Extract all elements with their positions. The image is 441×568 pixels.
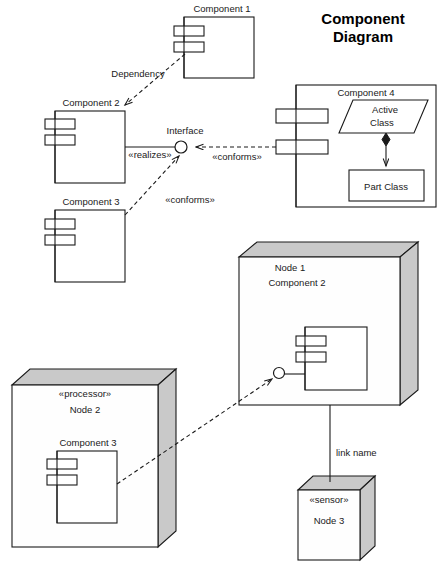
- node-1-side-face: [400, 242, 418, 405]
- conforms-lower-label: «conforms»: [165, 194, 215, 205]
- node-1-component-icon-bar-top: [296, 336, 326, 346]
- component-2-icon-bar-top: [45, 119, 75, 129]
- node-2-component-icon-bar-top: [47, 459, 77, 469]
- node-2-component-icon-bar-bottom: [47, 475, 77, 485]
- node-2-side-face: [158, 369, 176, 547]
- component-3-icon-bar-top: [45, 219, 75, 229]
- node-3-stereotype-label: «sensor»: [309, 494, 348, 505]
- active-class-label-line1: Active: [372, 104, 398, 115]
- conforms-lower-arrow[interactable]: [125, 156, 179, 215]
- component-3[interactable]: Component 3: [45, 196, 125, 282]
- conforms-right-label: «conforms»: [212, 151, 262, 162]
- realizes-label: «realizes»: [128, 149, 171, 160]
- interface-label: Interface: [167, 125, 204, 136]
- component-1-icon-bar-top: [174, 26, 204, 36]
- node-2[interactable]: «processor» Node 2 Component 3: [12, 369, 176, 547]
- part-class[interactable]: Part Class: [349, 170, 424, 201]
- component-4[interactable]: Component 4 Active Class Part Class: [276, 85, 436, 207]
- component-2-icon-bar-bottom: [45, 135, 75, 145]
- conforms-lower-relationship[interactable]: «conforms»: [125, 156, 215, 215]
- active-class[interactable]: Active Class: [339, 100, 428, 133]
- component-4-label: Component 4: [337, 87, 394, 98]
- component-4-icon-bar-top: [276, 109, 328, 123]
- node-3-name-label: Node 3: [314, 515, 345, 526]
- link-name-label: link name: [336, 447, 377, 458]
- component-3-icon-bar-bottom: [45, 235, 75, 245]
- interface-lollipop[interactable]: Interface «realizes»: [125, 125, 203, 160]
- node-1-top-face: [239, 242, 418, 257]
- component-2[interactable]: Component 2: [45, 97, 125, 183]
- node-3[interactable]: «sensor» Node 3: [298, 476, 375, 560]
- node-2-component-label: Component 3: [59, 437, 116, 448]
- component-3-label: Component 3: [62, 196, 119, 207]
- node-3-side-face: [360, 476, 375, 560]
- node-1-component-icon-bar-bottom: [296, 352, 326, 362]
- diagram-title-line2: Diagram: [333, 28, 393, 45]
- node-1-nested-component-2[interactable]: [296, 327, 367, 390]
- dependency-relationship[interactable]: Dependency: [111, 54, 185, 105]
- node-1-name-label: Node 1: [275, 262, 306, 273]
- component-1-icon-bar-bottom: [174, 42, 204, 52]
- uml-diagram-svg: Component Diagram Component 1 Dependency…: [0, 0, 441, 568]
- node-link-association[interactable]: link name: [330, 405, 377, 482]
- conforms-right-relationship[interactable]: «conforms»: [196, 147, 276, 162]
- node-2-name-label: Node 2: [70, 404, 101, 415]
- diagram-title: Component Diagram: [321, 10, 404, 45]
- node-1[interactable]: Node 1 Component 2: [239, 242, 418, 405]
- component-1[interactable]: Component 1: [174, 3, 254, 78]
- diagram-title-line1: Component: [321, 10, 404, 27]
- node-2-stereotype-label: «processor»: [59, 388, 111, 399]
- component-4-icon-bar-bottom: [276, 140, 328, 154]
- interface-circle-icon[interactable]: [175, 141, 187, 153]
- active-class-label-line2: Class: [370, 117, 394, 128]
- node-1-component-label: Component 2: [268, 277, 325, 288]
- node-2-top-face: [12, 369, 176, 385]
- part-class-label: Part Class: [364, 181, 408, 192]
- dependency-label: Dependency: [111, 68, 165, 79]
- component-diagram-canvas: Component Diagram Component 1 Dependency…: [0, 0, 441, 568]
- dependency-arrow[interactable]: [125, 54, 185, 105]
- node-1-interface-circle-icon[interactable]: [274, 368, 285, 379]
- component-1-label: Component 1: [193, 3, 250, 14]
- component-2-label: Component 2: [62, 97, 119, 108]
